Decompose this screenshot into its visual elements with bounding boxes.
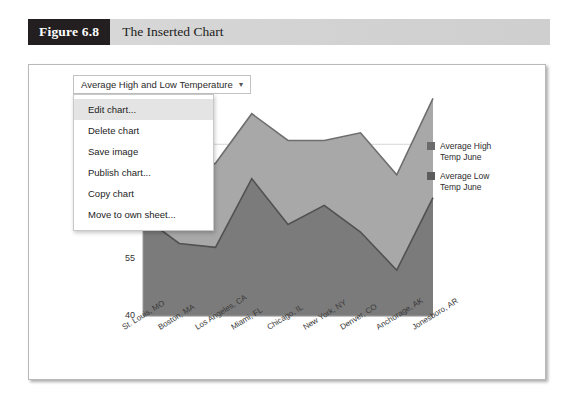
legend-entry: Average High Temp June <box>427 141 537 162</box>
legend-label: Average Low Temp June <box>440 171 500 192</box>
chart-title-label: Average High and Low Temperature <box>81 79 233 90</box>
menu-item-copy-chart[interactable]: Copy chart <box>74 183 213 204</box>
chevron-down-icon: ▾ <box>239 81 243 89</box>
chart-context-menu[interactable]: Edit chart...Delete chartSave imagePubli… <box>73 94 214 231</box>
menu-item-move-to-own-sheet[interactable]: Move to own sheet... <box>74 204 213 225</box>
chart-card: Average High Temp JuneAverage Low Temp J… <box>28 64 546 380</box>
chart-title-dropdown-button[interactable]: Average High and Low Temperature ▾ <box>73 75 251 94</box>
figure-title: The Inserted Chart <box>110 19 223 45</box>
menu-item-delete-chart[interactable]: Delete chart <box>74 120 213 141</box>
figure-caption-bar: Figure 6.8 The Inserted Chart <box>28 19 550 45</box>
menu-item-edit-chart[interactable]: Edit chart... <box>74 99 213 120</box>
legend-label: Average High Temp June <box>440 141 500 162</box>
menu-item-publish-chart[interactable]: Publish chart... <box>74 162 213 183</box>
legend-swatch-icon <box>427 172 435 180</box>
y-axis-tick-label: 55 <box>109 254 135 263</box>
legend-entry: Average Low Temp June <box>427 171 537 192</box>
figure-number: Figure 6.8 <box>28 19 110 45</box>
legend-swatch-icon <box>427 142 435 150</box>
menu-item-save-image[interactable]: Save image <box>74 141 213 162</box>
chart-legend: Average High Temp JuneAverage Low Temp J… <box>427 141 537 201</box>
